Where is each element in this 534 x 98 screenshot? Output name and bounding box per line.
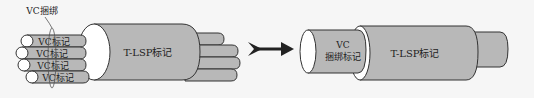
tunnel-label-right: T-LSP标记 [391,48,440,59]
vc-cables-enter: VC标记 VC标记 VC标记 VC标记 [16,35,89,83]
arrow-right-icon [248,42,294,56]
vc-cable: VC标记 [21,35,86,47]
vc-bundle-label-line1: VC [335,40,349,50]
vc-bundle-callout: VC捆绑 [25,5,57,16]
left-group: T-LSP标记 VC标记 VC标记 VC标记 VC标记 [16,5,240,88]
callout-line [45,17,52,28]
vc-cable-label: VC标记 [37,36,69,47]
vc-bundle-label-line2: 捆绑标记 [325,51,361,62]
vc-bundle-cylinder: VC 捆绑标记 [300,30,366,73]
vc-cable-label: VC标记 [35,48,67,59]
t-lsp-tunnel-right: T-LSP标记 [350,26,478,80]
tunnel-label-left: T-LSP标记 [124,47,173,58]
diagram-canvas: T-LSP标记 VC标记 VC标记 VC标记 VC标记 [0,0,534,98]
right-group: T-LSP标记 VC 捆绑标记 [300,26,508,80]
t-lsp-tunnel-left: T-LSP标记 [78,24,200,80]
vc-cable: VC标记 [16,47,86,59]
vc-cable-label: VC标记 [41,72,73,83]
vc-cable: VC标记 [18,59,86,71]
vc-cable-label: VC标记 [36,60,68,71]
vc-cable: VC标记 [26,71,89,83]
